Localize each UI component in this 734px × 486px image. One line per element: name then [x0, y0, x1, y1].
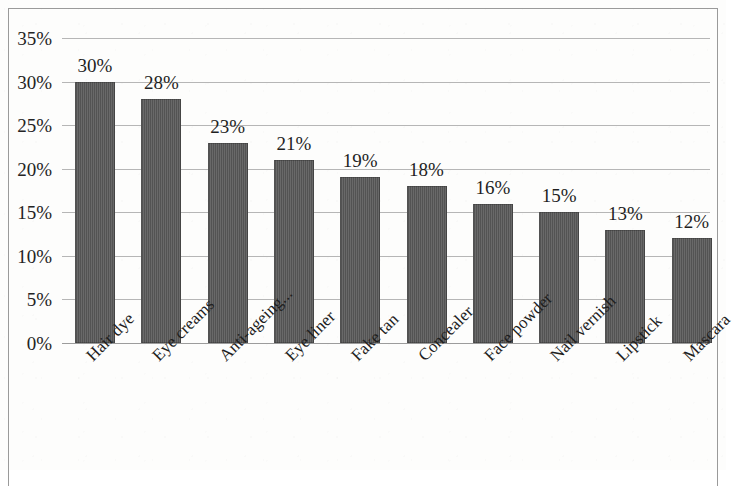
x-axis-category-labels: Hair dyeEye creamsAnti-ageing...Eye line…: [62, 0, 710, 130]
bar: [274, 160, 314, 343]
bar: [407, 186, 447, 343]
y-axis-tick-label: 25%: [8, 116, 52, 135]
bar-value-label: 18%: [387, 160, 467, 179]
bar-value-label: 21%: [254, 134, 334, 153]
y-axis-tick-label: 30%: [8, 73, 52, 92]
y-axis-tick-label: 10%: [8, 247, 52, 266]
bar: [208, 143, 248, 343]
y-axis-tick-label: 0%: [8, 334, 52, 353]
bar: [473, 204, 513, 343]
bar: [340, 177, 380, 343]
y-axis-tick-label: 35%: [8, 29, 52, 48]
y-axis-tick-label: 15%: [8, 203, 52, 222]
y-axis-tick-label: 20%: [8, 160, 52, 179]
bar: [141, 99, 181, 343]
y-axis-tick-label: 5%: [8, 290, 52, 309]
bar-value-label: 12%: [652, 212, 732, 231]
bar-value-label: 15%: [519, 186, 599, 205]
